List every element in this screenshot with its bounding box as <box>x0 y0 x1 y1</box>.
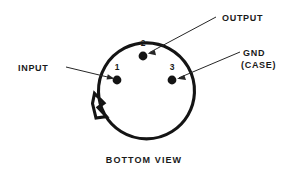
label-output: OUTPUT <box>222 13 263 23</box>
pinout-diagram: 1 2 3 INPUT OUTPUT <box>0 0 288 181</box>
pin-3-number: 3 <box>170 62 175 72</box>
output-leader-group <box>148 17 216 55</box>
pin-1-dot <box>113 76 122 85</box>
pin-3-dot <box>168 76 177 85</box>
pin-1-group: 1 <box>113 62 122 84</box>
pin-3-group: 3 <box>168 62 177 84</box>
label-input: INPUT <box>18 63 49 73</box>
pin-2-number: 2 <box>141 38 146 48</box>
input-arrowhead <box>107 74 115 79</box>
pin-2-dot <box>139 52 148 61</box>
label-gnd: GND <box>243 48 265 58</box>
diagram-caption: BOTTOM VIEW <box>106 155 182 165</box>
output-leader-line <box>150 17 217 53</box>
label-gnd-case: (CASE) <box>241 60 276 70</box>
diagram-canvas: 1 2 3 INPUT OUTPUT <box>0 0 288 181</box>
pin-1-number: 1 <box>115 62 120 72</box>
input-leader-group <box>66 67 115 79</box>
